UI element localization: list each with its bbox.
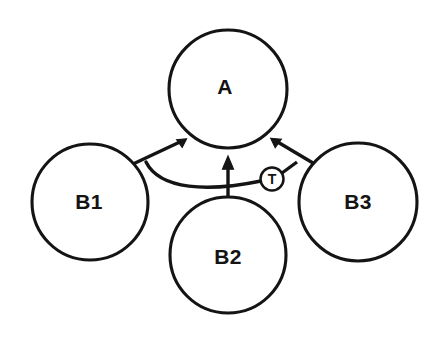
node-b2-label: B2 [214, 245, 241, 268]
modifier-t-label: T [268, 171, 277, 187]
edge-b1-to-a [133, 141, 182, 164]
node-b1-label: B1 [75, 190, 102, 213]
node-b1[interactable]: B1 [32, 144, 148, 260]
edge-b1-inhibition-arc [146, 162, 261, 187]
network-diagram: A B1 B2 B3 T [0, 0, 445, 345]
node-b3-label: B3 [344, 190, 371, 213]
node-a-label: A [217, 75, 232, 98]
edge-t-to-b3-junction [282, 162, 297, 173]
nodes-layer: A B1 B2 B3 [32, 30, 417, 313]
modifier-t[interactable]: T [261, 168, 284, 191]
diagram-canvas: A B1 B2 B3 T [0, 0, 445, 345]
node-b2[interactable]: B2 [170, 197, 286, 313]
node-a[interactable]: A [169, 30, 287, 148]
arrowhead-b2-to-a-icon [222, 156, 233, 169]
node-b3[interactable]: B3 [299, 143, 417, 261]
